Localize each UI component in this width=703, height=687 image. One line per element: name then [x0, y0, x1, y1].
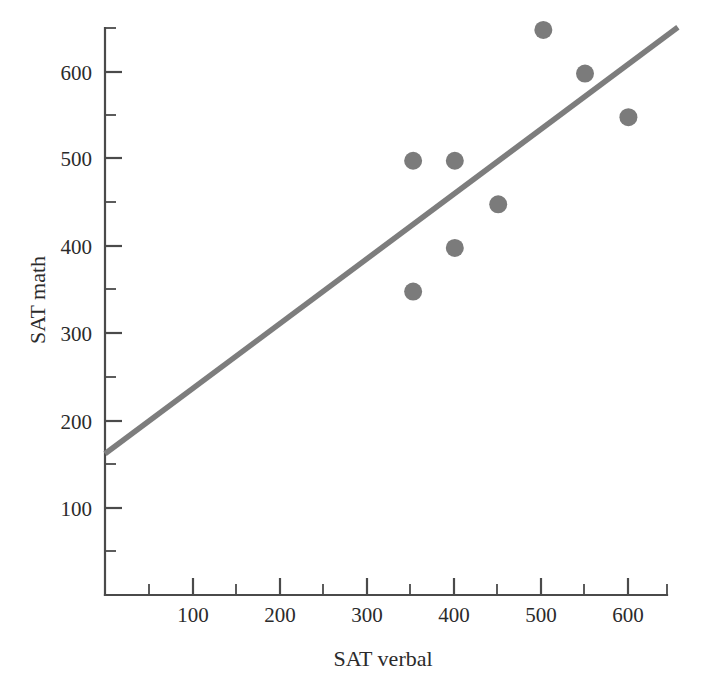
- x-axis-tick-labels: 100 200 300 400 500 600: [177, 603, 644, 627]
- data-point: [489, 195, 507, 213]
- y-tick-label-100: 100: [61, 497, 93, 521]
- data-point: [534, 21, 552, 39]
- y-axis-title: SAT math: [25, 256, 50, 344]
- data-point: [404, 283, 422, 301]
- regression-trend-line: [105, 27, 678, 453]
- y-tick-label-200: 200: [61, 410, 93, 434]
- y-tick-label-600: 600: [61, 61, 93, 85]
- x-tick-label-300: 300: [351, 603, 383, 627]
- y-axis-ticks: [105, 28, 122, 551]
- scatter-plot-figure: 600 500 400 300 200 100 100 200: [0, 0, 703, 687]
- x-tick-label-200: 200: [264, 603, 296, 627]
- data-point: [404, 152, 422, 170]
- axis-group: [105, 28, 667, 595]
- x-axis-ticks: [149, 578, 667, 595]
- y-tick-label-300: 300: [61, 322, 93, 346]
- scatter-points-group: [404, 21, 637, 301]
- data-point: [446, 239, 464, 257]
- plot-canvas: 600 500 400 300 200 100 100 200: [0, 0, 703, 687]
- x-axis-title: SAT verbal: [333, 646, 432, 671]
- data-point: [619, 108, 637, 126]
- y-axis-tick-labels: 600 500 400 300 200 100: [61, 61, 93, 521]
- x-tick-label-500: 500: [525, 603, 557, 627]
- y-tick-label-500: 500: [61, 147, 93, 171]
- x-tick-label-400: 400: [438, 603, 470, 627]
- y-tick-label-400: 400: [61, 235, 93, 259]
- x-tick-label-600: 600: [612, 603, 644, 627]
- x-tick-label-100: 100: [177, 603, 209, 627]
- data-point: [446, 152, 464, 170]
- data-point: [576, 65, 594, 83]
